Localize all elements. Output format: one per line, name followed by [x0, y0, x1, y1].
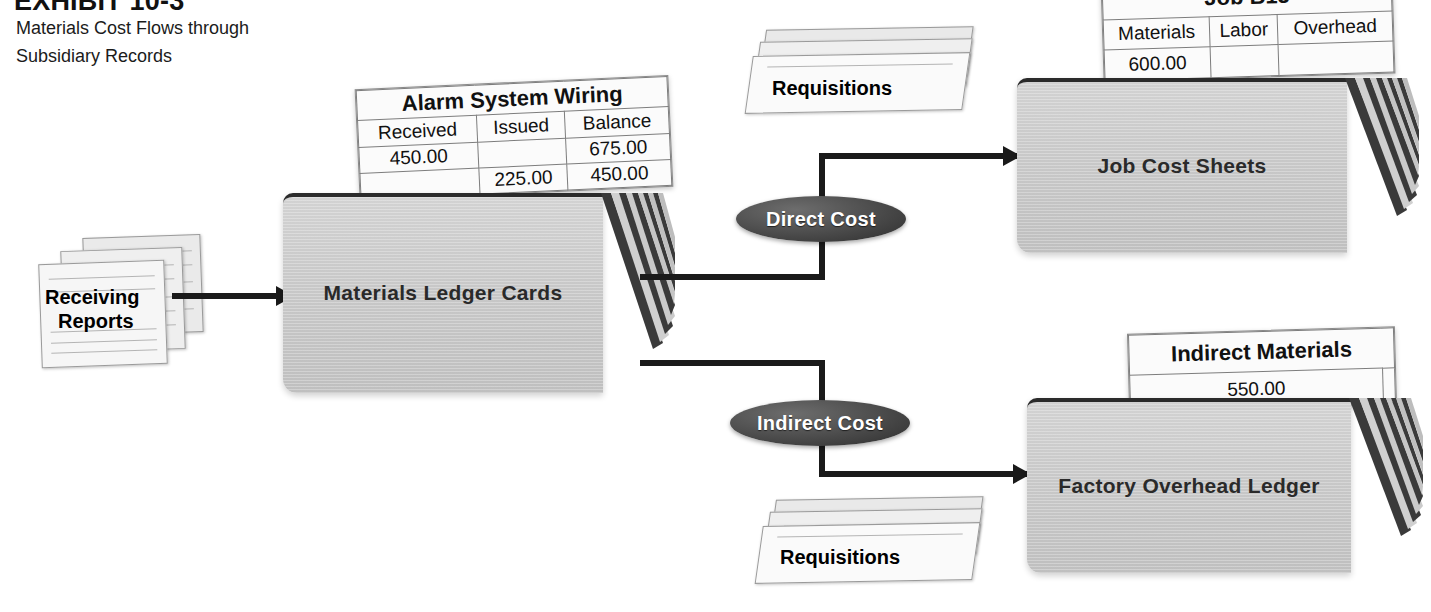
- arrow-receiving-to-ledger-line: [172, 293, 282, 299]
- materials-ledger-cards[interactable]: Materials Ledger Cards: [283, 193, 673, 393]
- exhibit-caption-line1: Materials Cost Flows through: [16, 14, 346, 42]
- card-fan-edge: [1345, 78, 1419, 253]
- alarm-r2-issued: 225.00: [479, 164, 569, 194]
- factory-overhead-ledger[interactable]: Factory Overhead Ledger: [1027, 398, 1421, 573]
- requisitions-top-label: Requisitions: [772, 77, 892, 100]
- alarm-col-issued: Issued: [476, 112, 566, 142]
- alarm-r1-issued: [478, 138, 568, 168]
- arrow-indirect-to-overhead-line: [819, 471, 1029, 477]
- job-b15-table: Job B15 Materials Labor Overhead 600.00: [1102, 0, 1395, 82]
- job-cost-sheets[interactable]: Job Cost Sheets: [1017, 78, 1417, 253]
- exhibit-caption: Materials Cost Flows through Subsidiary …: [16, 14, 346, 70]
- alarm-system-wiring-table: Alarm System Wiring Received Issued Bala…: [356, 76, 673, 200]
- indirect-cost-badge[interactable]: Indirect Cost: [730, 400, 910, 446]
- receiving-reports-group[interactable]: Receiving Reports: [28, 236, 208, 366]
- alarm-r2-balance: 450.00: [567, 159, 672, 190]
- alarm-system-wiring-card[interactable]: Alarm System Wiring Received Issued Bala…: [355, 75, 674, 201]
- indirect-cost-label: Indirect Cost: [757, 412, 883, 435]
- factory-overhead-ledger-label: Factory Overhead Ledger: [1027, 474, 1351, 498]
- job-b15-r1-labor: [1210, 45, 1279, 78]
- direct-cost-badge[interactable]: Direct Cost: [736, 196, 906, 242]
- exhibit-caption-line2: Subsidiary Records: [16, 42, 346, 70]
- branch-top-horizontal: [640, 274, 825, 280]
- job-b15-col-overhead: Overhead: [1278, 11, 1393, 45]
- card-fan-edge: [1349, 398, 1423, 573]
- receiving-reports-label-line1: Receiving: [45, 286, 139, 309]
- receiving-reports-label-line2: Reports: [58, 310, 134, 333]
- job-b15-col-labor: Labor: [1209, 14, 1278, 47]
- job-b15-card[interactable]: Job B15 Materials Labor Overhead 600.00: [1101, 0, 1396, 83]
- job-b15-r1-overhead: [1278, 41, 1393, 75]
- arrow-direct-to-jobcost-line: [819, 153, 1019, 159]
- job-b15-r1-materials: 600.00: [1104, 47, 1211, 81]
- job-cost-sheets-label: Job Cost Sheets: [1017, 154, 1347, 178]
- requisitions-top-group[interactable]: Requisitions: [745, 28, 995, 133]
- requisitions-bottom-label: Requisitions: [780, 546, 900, 569]
- requisitions-bottom-group[interactable]: Requisitions: [755, 498, 1005, 603]
- job-b15-col-materials: Materials: [1103, 16, 1210, 50]
- direct-cost-label: Direct Cost: [766, 208, 876, 231]
- materials-ledger-cards-label: Materials Ledger Cards: [283, 281, 603, 305]
- branch-bottom-horizontal: [640, 360, 825, 366]
